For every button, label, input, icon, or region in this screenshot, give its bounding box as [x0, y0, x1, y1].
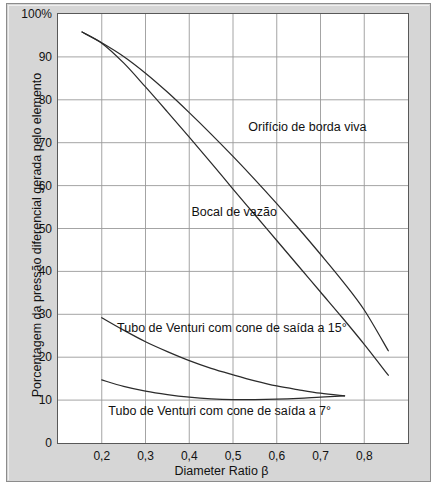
x-tick-label: 0,5	[225, 450, 242, 462]
curve-label-orificio: Orifício de borda viva	[248, 120, 366, 134]
y-axis-title: Porcentagem da pressão diferencial gerad…	[30, 35, 44, 435]
x-tick-label: 0,2	[93, 450, 110, 462]
x-tick-label: 0,8	[356, 450, 373, 462]
curve-label-venturi-7: Tubo de Venturi com cone de saída a 7°	[108, 404, 331, 418]
x-tick-label: 0,7	[312, 450, 329, 462]
x-tick-label: 0,3	[137, 450, 154, 462]
curve-label-venturi-15: Tubo de Venturi com cone de saída a 15°	[117, 321, 347, 335]
figure-container: 100%9080706050403020100 0,20,30,40,50,60…	[0, 0, 443, 495]
x-axis-title: Diameter Ratio β	[0, 464, 443, 478]
x-tick-label: 0,4	[181, 450, 198, 462]
x-tick-label: 0,6	[268, 450, 285, 462]
x-axis-ticks: 0,20,30,40,50,60,70,8	[0, 0, 443, 495]
curve-label-bocal: Bocal de vazão	[191, 205, 276, 219]
